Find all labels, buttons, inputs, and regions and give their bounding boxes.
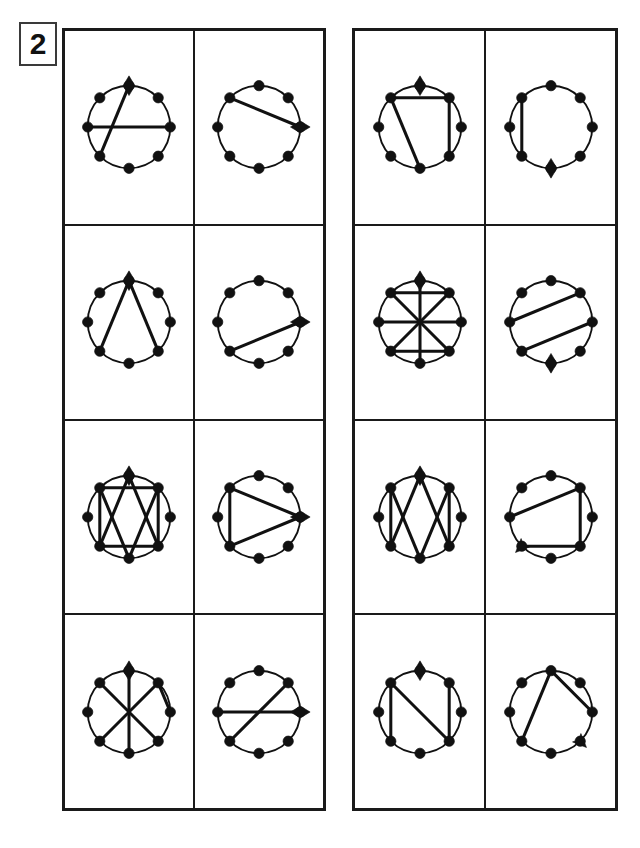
node-lower-left — [516, 541, 526, 551]
node-upper-right — [444, 288, 454, 298]
circle-graph-cell-3-1 — [70, 458, 188, 576]
right-panel-row-1 — [355, 31, 615, 226]
left-panel-cell-3-2[interactable] — [195, 421, 323, 614]
node-lower-right — [153, 541, 163, 551]
node-right — [165, 707, 175, 717]
node-left — [504, 707, 514, 717]
left-panel-row-4 — [65, 615, 323, 808]
node-lower-right — [444, 541, 454, 551]
node-upper-left — [225, 483, 235, 493]
node-upper-right — [283, 483, 293, 493]
left-panel-cell-1-1[interactable] — [65, 31, 195, 224]
node-lower-left — [95, 736, 105, 746]
node-top — [545, 276, 555, 286]
node-bottom — [124, 358, 134, 368]
node-upper-left — [225, 288, 235, 298]
node-upper-left — [95, 93, 105, 103]
node-left — [83, 512, 93, 522]
node-top — [414, 81, 424, 91]
node-lower-right — [153, 346, 163, 356]
circle-graph-cell-4-1 — [361, 653, 479, 771]
node-bottom — [545, 748, 555, 758]
left-panel-cell-4-1[interactable] — [65, 615, 195, 808]
node-right — [295, 317, 305, 327]
circle-graph-cell-1-2 — [492, 68, 610, 186]
node-bottom — [124, 748, 134, 758]
node-upper-right — [444, 483, 454, 493]
node-upper-right — [283, 677, 293, 687]
node-right — [456, 317, 466, 327]
node-left — [504, 317, 514, 327]
right-panel-row-4 — [355, 615, 615, 808]
node-bottom — [254, 164, 264, 174]
node-upper-right — [283, 288, 293, 298]
node-lower-right — [444, 151, 454, 161]
right-panel-cell-1-2[interactable] — [486, 31, 615, 224]
node-top — [254, 665, 264, 675]
node-lower-left — [516, 151, 526, 161]
chord-upper-left-to-lower-right — [390, 682, 448, 740]
right-panel-cell-3-2[interactable] — [486, 421, 615, 614]
right-panel-cell-1-1[interactable] — [355, 31, 486, 224]
node-lower-left — [385, 736, 395, 746]
circle-graph-cell-4-1 — [70, 653, 188, 771]
node-left — [213, 707, 223, 717]
node-lower-left — [385, 151, 395, 161]
left-panel-cell-3-1[interactable] — [65, 421, 195, 614]
left-panel-cell-2-2[interactable] — [195, 226, 323, 419]
node-upper-left — [225, 677, 235, 687]
right-panel-cell-3-1[interactable] — [355, 421, 486, 614]
diagram-panel-left — [62, 28, 326, 811]
node-lower-right — [283, 151, 293, 161]
node-upper-left — [516, 93, 526, 103]
left-panel-cell-1-2[interactable] — [195, 31, 323, 224]
node-right — [587, 512, 597, 522]
node-upper-right — [575, 288, 585, 298]
right-panel-cell-2-1[interactable] — [355, 226, 486, 419]
node-lower-right — [575, 541, 585, 551]
node-right — [165, 512, 175, 522]
node-right — [587, 122, 597, 132]
node-right — [295, 512, 305, 522]
right-panel-cell-4-2[interactable] — [486, 615, 615, 808]
node-upper-left — [225, 93, 235, 103]
node-top — [124, 81, 134, 91]
node-top — [545, 81, 555, 91]
node-lower-left — [225, 736, 235, 746]
left-panel-row-3 — [65, 421, 323, 616]
node-top — [254, 81, 264, 91]
node-upper-left — [516, 677, 526, 687]
node-lower-left — [225, 346, 235, 356]
node-bottom — [124, 553, 134, 563]
node-right — [456, 707, 466, 717]
node-top — [414, 665, 424, 675]
node-top — [414, 276, 424, 286]
right-panel-cell-2-2[interactable] — [486, 226, 615, 419]
node-left — [373, 317, 383, 327]
node-bottom — [414, 164, 424, 174]
node-bottom — [545, 553, 555, 563]
right-panel-cell-4-1[interactable] — [355, 615, 486, 808]
node-upper-right — [153, 677, 163, 687]
node-top — [545, 665, 555, 675]
node-lower-right — [575, 346, 585, 356]
node-right — [587, 317, 597, 327]
node-left — [213, 512, 223, 522]
node-left — [83, 317, 93, 327]
figure-label: 2 — [19, 22, 57, 66]
node-bottom — [545, 358, 555, 368]
node-right — [587, 707, 597, 717]
left-panel-cell-2-1[interactable] — [65, 226, 195, 419]
node-right — [456, 122, 466, 132]
node-lower-right — [444, 346, 454, 356]
circle-graph-cell-3-1 — [361, 458, 479, 576]
circle-graph-cell-1-2 — [200, 68, 318, 186]
node-top — [545, 470, 555, 480]
left-panel-row-2 — [65, 226, 323, 421]
left-panel-cell-4-2[interactable] — [195, 615, 323, 808]
circle-graph-cell-1-1 — [361, 68, 479, 186]
node-left — [373, 122, 383, 132]
node-lower-left — [225, 541, 235, 551]
right-panel-row-3 — [355, 421, 615, 616]
circle-graph-cell-2-1 — [70, 263, 188, 381]
